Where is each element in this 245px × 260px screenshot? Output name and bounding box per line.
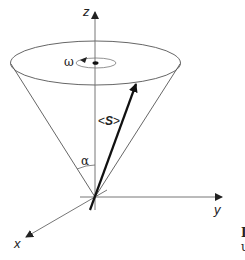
precession-diagram bbox=[0, 0, 245, 260]
spin-label-symbol: S bbox=[105, 114, 113, 128]
omega-label: ω bbox=[64, 56, 74, 68]
cone-right-edge bbox=[95, 64, 180, 197]
cone-left-edge bbox=[11, 64, 95, 197]
alpha-label: α bbox=[81, 155, 89, 167]
y-axis-label: y bbox=[214, 203, 221, 216]
precession-center-dot bbox=[93, 61, 99, 65]
cropped-text-line-1: I bbox=[241, 226, 245, 240]
spin-label-open: < bbox=[98, 114, 105, 128]
cropped-text-line-2: u bbox=[241, 240, 245, 254]
spin-label-close: > bbox=[113, 114, 120, 128]
spin-label: <S> bbox=[98, 115, 120, 127]
x-axis-label: x bbox=[14, 237, 21, 250]
rotation-arrowhead-icon bbox=[80, 57, 87, 63]
z-axis-label: z bbox=[83, 5, 90, 18]
spin-vector-arrow bbox=[90, 84, 136, 210]
